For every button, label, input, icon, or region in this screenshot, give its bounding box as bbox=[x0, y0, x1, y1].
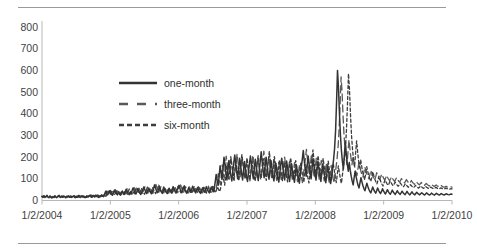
legend-item-one-month: one-month bbox=[118, 72, 221, 93]
x-tick-label: 1/2/2009 bbox=[352, 210, 416, 221]
legend-swatch-short-dash-icon bbox=[118, 120, 158, 130]
x-tick-label: 1/2/2010 bbox=[420, 210, 477, 221]
x-tick-label: 1/2/2008 bbox=[283, 210, 347, 221]
x-tick-label: 1/2/2007 bbox=[215, 210, 279, 221]
legend-item-three-month: three-month bbox=[118, 93, 221, 114]
chart-legend: one-monththree-monthsix-month bbox=[118, 72, 221, 135]
legend-swatch-solid-icon bbox=[118, 78, 158, 88]
legend-swatch-long-dash-icon bbox=[118, 99, 158, 109]
x-tick-label: 1/2/2004 bbox=[10, 210, 74, 221]
x-tick-label: 1/2/2006 bbox=[147, 210, 211, 221]
legend-label: one-month bbox=[164, 77, 214, 89]
legend-item-six-month: six-month bbox=[118, 114, 221, 135]
x-tick-label: 1/2/2005 bbox=[78, 210, 142, 221]
legend-label: six-month bbox=[164, 119, 210, 131]
legend-label: three-month bbox=[164, 98, 221, 110]
